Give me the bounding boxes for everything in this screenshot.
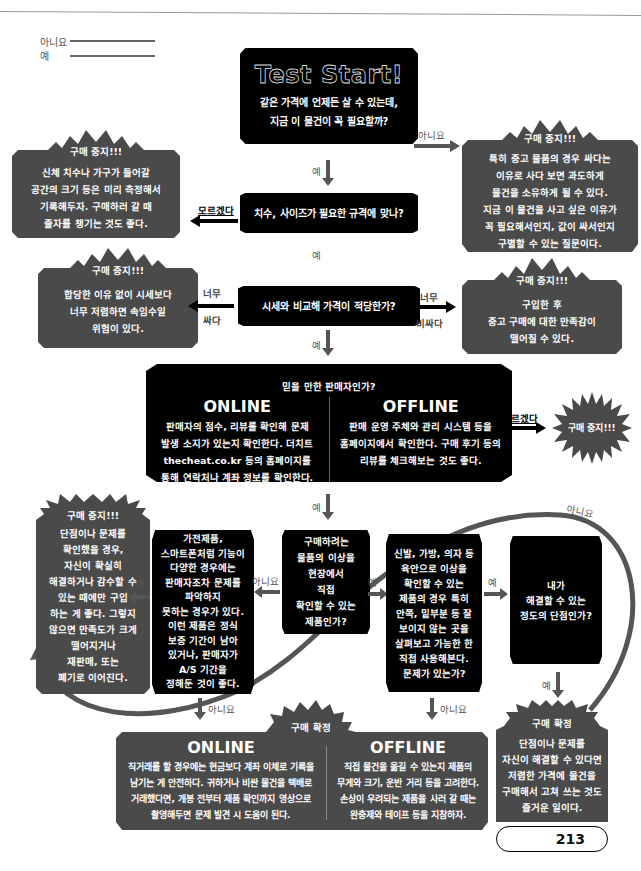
page-header-rule	[0, 11, 641, 16]
confirm-fix-card: 구매 확정 단점이나 문제를 자신이 해결할 수 있다면 저렴한 가격에 물건을…	[496, 700, 608, 822]
question-inspect-box: 구매하려는 물품의 이상을 현장에서 직접 확인할 수 있는 제품인가?	[282, 530, 370, 634]
start-question-line1: 같은 가격에 언제든 살 수 있는데,	[260, 93, 398, 112]
arrow-label-yes: 예	[542, 678, 551, 692]
arrow-right-icon	[410, 301, 456, 313]
stop-expensive-title: 구매 중지!!!	[462, 273, 622, 287]
arrow-label-yes: 예	[312, 248, 321, 262]
arrow-label-too-cheap-1: 너무	[203, 286, 221, 300]
arrow-left-icon	[188, 300, 234, 312]
question-size-box: 치수, 사이즈가 필요한 규격에 맞나?	[240, 193, 418, 233]
confirm-fix-title: 구매 확정	[496, 716, 608, 730]
arrow-label-yes: 예	[488, 575, 497, 589]
arrow-label-yes: 예	[136, 576, 145, 590]
stop-seller-star: 구매 중지!!!	[552, 392, 632, 464]
stop-expensive-text: 구입한 후 중고 구매에 대한 만족감이 떨어질 수 있다.	[462, 296, 622, 347]
seller-online-column: ONLINE 판매자의 점수, 리뷰를 확인해 문제 발생 소지가 있는지 확인…	[146, 397, 330, 486]
arrow-label-too-expensive-2: 비싸다	[416, 316, 443, 330]
confirm-bottom-title: 구매 확정	[266, 720, 356, 734]
column-divider	[326, 746, 327, 820]
seller-question-title: 믿을 만한 판매자인가?	[282, 378, 375, 395]
arrow-right-icon	[368, 588, 388, 600]
question-visual-box: 신발, 가방, 의자 등 육안으로 이상을 확인할 수 있는 제품의 경우 특히…	[386, 534, 482, 692]
arrow-down-icon	[322, 160, 334, 186]
question-price-box: 시세와 비교해 가격이 적당한가?	[238, 286, 420, 326]
arrow-label-too-cheap-2: 싸다	[203, 313, 221, 327]
seller-offline-column: OFFLINE 판매 운영 주체와 관리 시스템 등을 홈페이지에서 확인한다.…	[330, 397, 513, 486]
arrow-label-yes: 예	[368, 575, 377, 589]
stop-size-text: 신체 치수나 가구가 들어갈 공간의 크기 등은 미리 측정해서 기록해두자. …	[12, 164, 180, 232]
arrow-left-icon	[254, 586, 280, 598]
confirm-bottom-card: 구매 확정 ONLINE 직거래를 할 경우에는 현금보다 계좌 이체로 기록을…	[116, 700, 488, 830]
stop-defect-title: 구매 중지!!!	[36, 508, 150, 522]
legend-yes-label: 예	[40, 48, 49, 63]
legend-yes-line	[70, 55, 155, 57]
legend-no-line	[70, 40, 155, 42]
arrow-left-icon	[128, 591, 150, 603]
question-fixable-box: 내가 해결할 수 있는 정도의 단점인가?	[510, 536, 602, 664]
legend-no-label: 아니요	[40, 34, 67, 49]
arrow-right-icon	[414, 140, 460, 152]
arrow-right-icon	[500, 422, 546, 434]
seller-offline-head: OFFLINE	[330, 397, 513, 416]
stop-cheap-text: 합당한 이유 없이 시세보다 너무 저렴하면 속임수일 위험이 있다.	[38, 286, 198, 337]
seller-online-head: ONLINE	[146, 397, 329, 416]
confirm-offline-column: OFFLINE 직접 물건을 옮길 수 있는지 제품의 무게와 크기, 운반 거…	[328, 738, 488, 823]
page-number: 213	[496, 826, 608, 852]
arrow-down-icon	[322, 330, 334, 356]
confirm-online-column: ONLINE 직거래를 할 경우에는 현금보다 계좌 이체로 기록을 남기는 게…	[116, 738, 326, 823]
stop-size-card: 구매 중지!!! 신체 치수나 가구가 들어갈 공간의 크기 등은 미리 측정해…	[12, 120, 180, 238]
stop-need-card: 구매 중지!!! 특히 중고 물품의 경우 싸다는 이유로 사다 보면 과도하게…	[462, 112, 638, 252]
question-electronics-box: 가전제품, 스마트폰처럼 기능이 다양한 경우에는 판매자조차 문제를 파악하지…	[152, 530, 254, 694]
stop-need-text: 특히 중고 물품의 경우 싸다는 이유로 사다 보면 과도하게 물건을 소유하게…	[462, 150, 638, 252]
stop-seller-title: 구매 중지!!!	[552, 421, 632, 434]
question-seller-box: 믿을 만한 판매자인가? ONLINE 판매자의 점수, 리뷰를 확인해 문제 …	[146, 364, 512, 482]
start-title: Test Start!	[255, 61, 403, 89]
stop-size-title: 구매 중지!!!	[12, 144, 180, 158]
stop-need-title: 구매 중지!!!	[462, 131, 638, 145]
stop-cheap-title: 구매 중지!!!	[38, 263, 198, 277]
start-box: Test Start! 같은 가격에 언제든 살 수 있는데, 지금 이 물건이…	[240, 48, 418, 144]
stop-cheap-card: 구매 중지!!! 합당한 이유 없이 시세보다 너무 저렴하면 속임수일 위험이…	[38, 246, 198, 348]
confirm-fix-text: 단점이나 문제를 자신이 해결할 수 있다면 저렴한 가격에 물건을 구매해서 …	[496, 736, 608, 816]
stop-expensive-card: 구매 중지!!! 구입한 후 중고 구매에 대한 만족감이 떨어질 수 있다.	[462, 252, 622, 354]
confirm-online-head: ONLINE	[116, 738, 326, 757]
arrow-down-icon	[552, 672, 564, 698]
arrow-label-yes: 예	[312, 338, 321, 352]
stop-defect-text: 단점이나 문제를 확인했을 경우, 자신이 확실히 해결하거나 감수할 수 있는…	[36, 526, 150, 686]
confirm-offline-head: OFFLINE	[328, 738, 488, 757]
start-question-line2: 지금 이 물건이 꼭 필요할까?	[270, 112, 389, 131]
arrow-label-yes: 예	[312, 164, 321, 178]
arrow-left-icon	[190, 215, 238, 227]
arrow-right-icon	[484, 588, 508, 600]
